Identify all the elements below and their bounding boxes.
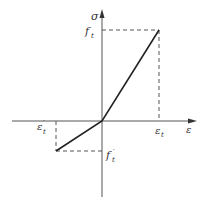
stress-strain-curve: [56, 30, 159, 151]
epsilon-axis-label: ε: [186, 124, 191, 135]
svg-text:ε: ε: [37, 121, 42, 132]
svg-text:ε: ε: [155, 125, 160, 136]
svg-text:f: f: [84, 25, 91, 38]
svg-text:′: ′: [43, 119, 45, 127]
svg-text:′: ′: [113, 148, 115, 156]
tensile-strain-label: ε t: [155, 125, 164, 139]
compressive-strain-label: ε ′ t: [37, 119, 46, 136]
sigma-axis-label: σ: [91, 10, 99, 23]
svg-text:t: t: [112, 156, 115, 164]
svg-text:t: t: [43, 128, 46, 136]
tensile-strength-label: f t: [84, 25, 94, 40]
svg-text:f: f: [105, 149, 112, 162]
sigma-axis-arrow-icon: [100, 9, 105, 18]
compressive-strength-label: f ′ t: [105, 148, 115, 164]
svg-text:t: t: [161, 131, 164, 139]
svg-text:t: t: [91, 32, 94, 40]
epsilon-axis-arrow-icon: [188, 119, 197, 124]
stress-strain-diagram: σ ε f t ε t ε ′ t f ′ t: [0, 0, 202, 210]
